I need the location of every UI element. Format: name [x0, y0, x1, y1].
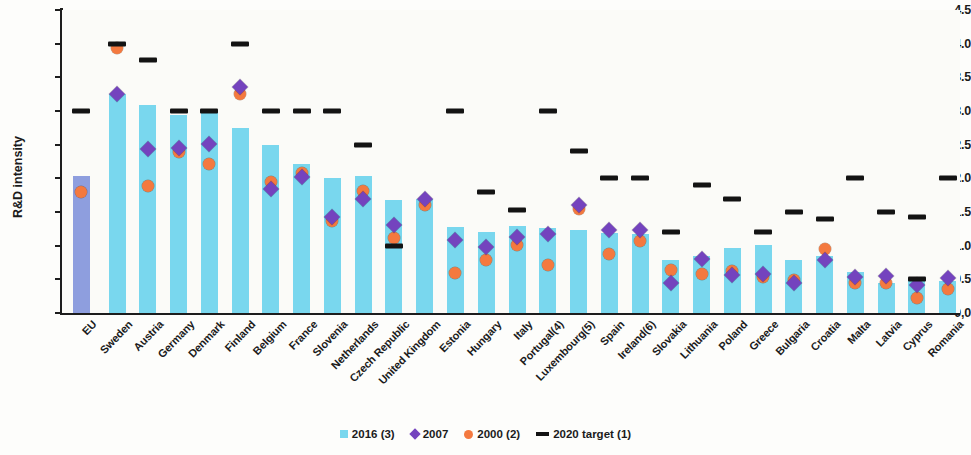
legend-item-2016-3[interactable]: 2016 (3): [340, 428, 395, 440]
square-swatch-icon: [340, 430, 348, 438]
marker-2020-target-slovakia: [662, 230, 680, 235]
bar-luxembourg-5: [570, 230, 587, 313]
marker-2020-target-sweden: [108, 41, 126, 46]
marker-2000-czech-republic: [388, 232, 400, 244]
marker-2020-target-italy: [508, 207, 526, 212]
marker-2020-target-greece: [754, 229, 772, 234]
marker-2000-portugal-4: [542, 259, 554, 271]
marker-2020-target-estonia: [446, 109, 464, 114]
bar-spain: [601, 233, 618, 313]
bar-sweden: [109, 94, 126, 313]
marker-2020-target-france: [293, 109, 311, 114]
bar-belgium: [262, 145, 279, 313]
x-axis-label-italy: Italy: [511, 318, 535, 342]
marker-2000-estonia: [449, 267, 461, 279]
marker-2020-target-germany: [170, 109, 188, 114]
marker-2020-target-malta: [846, 176, 864, 181]
y-axis-tick-mark: [55, 9, 62, 11]
marker-2020-target-ireland-6: [631, 176, 649, 181]
y-axis-tick-mark: [55, 110, 62, 112]
y-axis-tick-mark: [55, 312, 62, 314]
bar-finland: [232, 128, 249, 313]
marker-2020-target-bulgaria: [785, 210, 803, 215]
diamond-swatch-icon: [409, 428, 420, 439]
legend-label: 2020 target (1): [553, 428, 631, 440]
marker-2000-lithuania: [696, 268, 708, 280]
marker-2020-target-croatia: [816, 216, 834, 221]
marker-2020-target-belgium: [262, 109, 280, 114]
legend-item-2007[interactable]: 2007: [411, 428, 449, 440]
marker-2020-target-finland: [231, 41, 249, 46]
y-axis-tick-mark: [55, 76, 62, 78]
x-axis-label-malta: Malta: [845, 318, 873, 346]
marker-2020-target-czech-republic: [385, 243, 403, 248]
y-axis-tick-mark: [55, 211, 62, 213]
y-axis-tick-mark: [55, 144, 62, 146]
marker-2020-target-hungary: [477, 189, 495, 194]
marker-2020-target-portugal-4: [539, 109, 557, 114]
legend-label: 2000 (2): [477, 428, 520, 440]
marker-2020-target-latvia: [877, 210, 895, 215]
marker-2000-hungary: [480, 254, 492, 266]
plot-area: [62, 10, 960, 313]
legend-label: 2016 (3): [352, 428, 395, 440]
marker-2000-eu: [75, 186, 87, 198]
marker-2020-target-lithuania: [693, 183, 711, 188]
legend-item-2020-target-1[interactable]: 2020 target (1): [536, 428, 631, 440]
marker-2020-target-austria: [139, 57, 157, 62]
x-axis-label-croatia: Croatia: [808, 318, 842, 353]
bar-austria: [139, 105, 156, 313]
marker-2000-denmark: [203, 158, 215, 170]
marker-2000-austria: [142, 180, 154, 192]
y-axis-tick-mark: [55, 43, 62, 45]
legend-item-2000-2[interactable]: 2000 (2): [464, 428, 520, 440]
circle-swatch-icon: [464, 430, 473, 439]
y-axis-title: R&D intensity: [11, 107, 25, 247]
x-axis-label-sweden: Sweden: [98, 318, 135, 356]
x-axis-label-spain: Spain: [598, 318, 627, 348]
marker-2020-target-romania: [939, 176, 957, 181]
y-axis-tick-mark: [55, 245, 62, 247]
marker-2020-target-spain: [600, 176, 618, 181]
marker-2020-target-slovenia: [323, 109, 341, 114]
x-axis-label-poland: Poland: [716, 318, 750, 352]
marker-2020-target-denmark: [200, 109, 218, 114]
rd-intensity-chart: R&D intensity 0,00.51.01.52.02.53.03.54.…: [0, 0, 971, 455]
marker-2020-target-netherlands: [354, 142, 372, 147]
dash-swatch-icon: [536, 432, 549, 436]
chart-legend: 2016 (3)20072000 (2)2020 target (1): [0, 428, 971, 440]
marker-2000-spain: [603, 248, 615, 260]
marker-2020-target-cyprus: [908, 277, 926, 282]
marker-2020-target-poland: [723, 196, 741, 201]
x-axis-label-eu: EU: [80, 318, 99, 337]
y-axis-tick-mark: [55, 278, 62, 280]
marker-2000-cyprus: [911, 292, 923, 304]
marker-2020-target-eu: [72, 109, 90, 114]
bar-france: [293, 164, 310, 313]
y-axis-tick-mark: [55, 177, 62, 179]
bar-united-kingdom: [416, 199, 433, 313]
marker-2020-target-secondary-cyprus: [908, 214, 926, 219]
marker-2020-target-luxembourg-5: [570, 149, 588, 154]
legend-label: 2007: [423, 428, 449, 440]
bar-slovenia: [324, 178, 341, 313]
